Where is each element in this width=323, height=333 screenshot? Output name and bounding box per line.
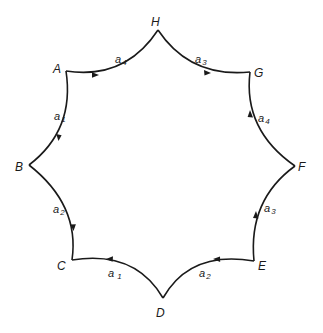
vertex-label-c: C [57,259,66,273]
edge-label-a4-top: a4 [115,53,127,67]
edge-c-b [29,165,73,260]
edge-g-f [249,72,295,166]
vertex-label-g: G [254,66,263,80]
vertex-label-d: D [156,306,165,320]
edge-label-a3-right: a3 [264,202,276,216]
vertex-label-h: H [151,15,160,29]
edge-label-a2-bottom: a2 [199,267,211,281]
edge-label-a4-right: a4 [258,112,270,126]
vertex-label-f: F [298,160,306,174]
arrow-left-icon [106,256,113,262]
arrow-down-icon [56,134,61,141]
vertex-label-b: B [15,160,23,174]
arrow-right-icon [92,72,99,78]
edge-label-a1-bottom: a1 [108,267,122,281]
edge-label-a3-top: a3 [195,53,207,67]
octagon-diagram: H G F E D C B A a4 a3 a4 a3 a2 a1 a2 a1 [0,0,323,333]
arrow-right-icon [204,70,211,76]
vertex-label-e: E [258,259,267,273]
vertex-label-a: A [52,62,61,76]
edge-a-h [66,30,158,72]
edge-label-a1-left: a1 [54,110,66,124]
